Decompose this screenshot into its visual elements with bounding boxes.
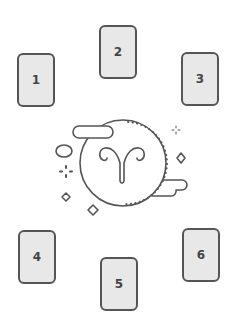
diamond-icon (88, 205, 98, 215)
aries-illustration (0, 0, 239, 325)
pill-cloud-icon (73, 126, 113, 138)
sparkle-icon (60, 166, 72, 177)
sparkle-icon (172, 126, 180, 134)
oval-icon (56, 145, 72, 157)
diamond-icon (177, 153, 185, 163)
diamond-icon (62, 193, 70, 201)
